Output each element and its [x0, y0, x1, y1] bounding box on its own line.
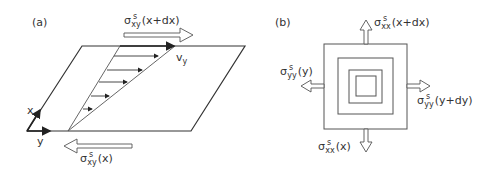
sigma-symbol: σ: [417, 94, 424, 107]
x-axis-label: x: [27, 105, 34, 116]
subscript: xx: [381, 22, 390, 31]
plate-parallelogram: [27, 46, 245, 131]
subscript: xy: [131, 20, 140, 29]
sigma-symbol: σ: [124, 14, 131, 27]
nested-squares: [324, 44, 407, 129]
sigma-symbol: σ: [318, 140, 325, 153]
shear-stress-top-arrow: [124, 28, 193, 42]
panel-b-label: (b): [275, 17, 291, 28]
velocity-label: vy: [176, 52, 187, 63]
sigma-symbol: σ: [374, 16, 381, 29]
normal-stress-top-arrow: [360, 20, 372, 44]
argument: (x+dx): [142, 14, 180, 27]
sigma-symbol: σ: [80, 152, 87, 165]
argument: (x+dx): [392, 16, 430, 29]
argument: (y+dy): [435, 94, 473, 107]
shear-stress-bottom-label: σsxy(x): [80, 153, 113, 164]
shear-stress-top-label: σsxy(x+dx): [124, 15, 179, 26]
velocity-subscript: y: [183, 57, 188, 66]
normal-stress-bottom-arrow: [360, 129, 372, 152]
argument: (x): [98, 152, 113, 165]
velocity-profile: [68, 46, 175, 131]
normal-stress-right-arrow: [407, 80, 430, 92]
sigma-symbol: σ: [280, 65, 287, 78]
velocity-symbol: v: [176, 51, 183, 64]
y-axis-label: y: [37, 136, 44, 147]
subscript: xy: [87, 158, 96, 167]
argument: (x): [336, 140, 351, 153]
normal-stress-left-label: σsyy(y): [280, 66, 313, 77]
panel-a-label: (a): [32, 17, 47, 28]
shear-stress-bottom-arrow: [64, 139, 132, 153]
normal-stress-bottom-label: σsxx(x): [318, 141, 351, 152]
subscript: yy: [287, 71, 296, 80]
normal-stress-left-arrow: [301, 80, 324, 92]
subscript: yy: [424, 100, 433, 109]
normal-stress-right-label: σsyy(y+dy): [417, 95, 472, 106]
argument: (y): [298, 65, 313, 78]
normal-stress-top-label: σsxx(x+dx): [374, 17, 429, 28]
subscript: xx: [325, 146, 334, 155]
